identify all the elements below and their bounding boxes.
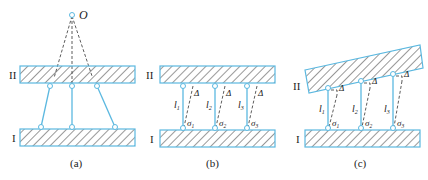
plate-ii-label: II — [9, 69, 17, 81]
plate-i-label: I — [150, 133, 154, 145]
rod-label-l1: l1 — [319, 103, 325, 115]
stress-label-2: σ2 — [219, 118, 226, 129]
delta-label: Δ — [338, 83, 344, 93]
joint — [95, 84, 100, 89]
delta-marker — [331, 90, 337, 95]
joint — [213, 126, 218, 131]
joint — [391, 126, 396, 131]
stress-label-2: σ2 — [365, 118, 372, 129]
rod-label-l3: l3 — [238, 99, 244, 111]
caption-b: (b) — [206, 157, 219, 170]
joint — [181, 126, 186, 131]
delta-marker — [396, 76, 402, 81]
joint — [48, 84, 53, 89]
plate-i — [305, 130, 420, 147]
panel-c: II I Δ Δ Δ l1 l2 l3 σ1 σ2 σ3 (c) — [293, 45, 423, 170]
joint — [391, 72, 396, 77]
rod-1 — [41, 86, 50, 127]
joint — [181, 84, 186, 89]
stress-label-3: σ3 — [251, 118, 258, 129]
caption-c: (c) — [354, 157, 367, 170]
panel-b: II I Δ Δ Δ l1 l2 l3 σ1 σ2 σ3 (b) — [146, 66, 275, 170]
panel-a: O II I (a) — [9, 8, 135, 170]
rod-label-l2: l2 — [352, 103, 358, 115]
plate-ii-label: II — [146, 69, 154, 81]
joint — [245, 84, 250, 89]
delta-label: Δ — [225, 88, 231, 98]
plate-ii-label: II — [293, 80, 301, 92]
plate-i-label: I — [296, 133, 300, 145]
diagram-canvas: O II I (a) II I Δ — [0, 0, 428, 180]
rod-label-l1: l1 — [174, 99, 180, 111]
rod-label-l3: l3 — [384, 103, 390, 115]
delta-marker — [364, 83, 370, 88]
delta-label: Δ — [371, 76, 377, 86]
rod-label-l2: l2 — [206, 99, 212, 111]
delta-label: Δ — [257, 88, 263, 98]
joint — [359, 126, 364, 131]
joint — [326, 86, 331, 91]
joint — [70, 84, 75, 89]
point-label-o: O — [79, 8, 88, 22]
joint — [245, 126, 250, 131]
joint — [39, 125, 44, 130]
pivot-point-o — [70, 13, 75, 18]
rod-3 — [97, 86, 115, 127]
stress-label-1: σ1 — [187, 118, 194, 129]
delta-label: Δ — [403, 69, 409, 79]
plate-ii — [160, 66, 275, 83]
stress-label-3: σ3 — [397, 118, 404, 129]
joint — [213, 84, 218, 89]
delta-label: Δ — [193, 88, 199, 98]
joint — [113, 125, 118, 130]
plate-i-label: I — [12, 132, 16, 144]
stress-label-1: σ1 — [332, 118, 339, 129]
joint — [326, 126, 331, 131]
caption-a: (a) — [70, 157, 83, 170]
joint — [359, 79, 364, 84]
plate-i — [160, 130, 275, 147]
joint — [70, 125, 75, 130]
plate-ii — [20, 66, 135, 83]
plate-i — [20, 129, 135, 146]
